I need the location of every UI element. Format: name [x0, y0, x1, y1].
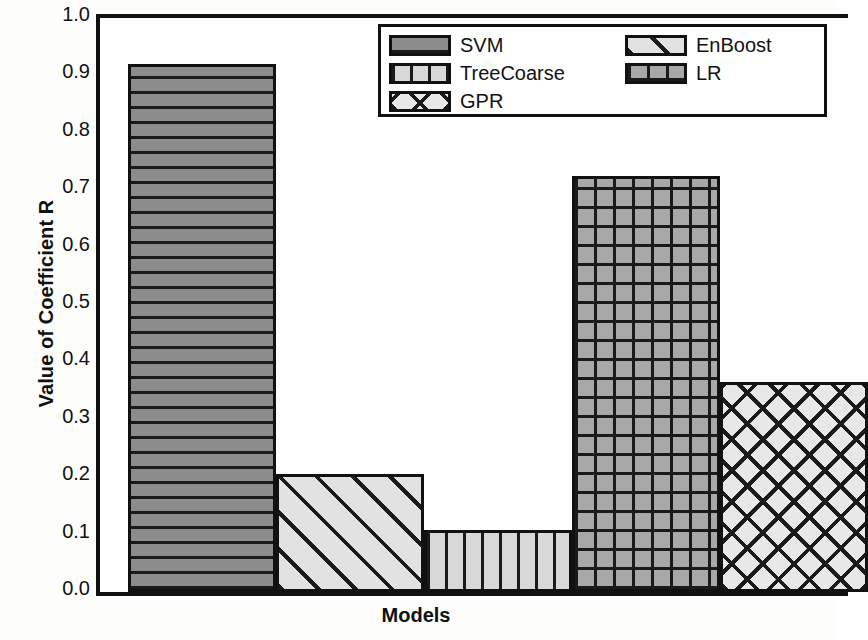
bar-svm — [128, 64, 276, 592]
y-axis-tick-label: 0.3 — [32, 406, 90, 426]
y-axis-tick-label: 0.7 — [32, 176, 90, 196]
y-axis-tick-label: 1.0 — [32, 4, 90, 24]
chart-legend: SVMEnBoostTreeCoarseLRGPR — [378, 24, 827, 117]
y-axis-tick-labels: 1.00.90.80.70.60.50.40.30.20.10.0 — [28, 0, 90, 640]
legend-item-lr[interactable]: LR — [625, 63, 722, 84]
y-axis-tick-label: 0.6 — [32, 234, 90, 254]
y-axis-tick-label: 0.9 — [32, 61, 90, 81]
legend-item-svm[interactable]: SVM — [389, 35, 625, 56]
legend-swatch-gpr-icon — [389, 91, 451, 112]
y-axis-tick-label: 0.5 — [32, 291, 90, 311]
x-axis-title: Models — [96, 604, 736, 627]
legend-swatch-lr-icon — [625, 63, 687, 84]
legend-swatch-enboost-icon — [625, 35, 687, 56]
legend-item-gpr[interactable]: GPR — [389, 91, 625, 112]
legend-item-treecoarse[interactable]: TreeCoarse — [389, 63, 625, 84]
legend-row: TreeCoarseLR — [389, 59, 818, 87]
y-axis-tick-label: 0.2 — [32, 463, 90, 483]
y-axis-tick-label: 0.0 — [32, 578, 90, 598]
legend-label: LR — [696, 63, 722, 83]
legend-label: SVM — [460, 35, 503, 55]
y-axis-tick-label: 0.8 — [32, 119, 90, 139]
bar-lr — [572, 176, 720, 592]
bar-gpr — [720, 382, 868, 592]
legend-label: GPR — [460, 91, 503, 111]
y-axis-tick-label: 0.1 — [32, 521, 90, 541]
legend-label: EnBoost — [696, 35, 772, 55]
bar-enboost — [276, 474, 424, 592]
legend-label: TreeCoarse — [460, 63, 565, 83]
legend-item-enboost[interactable]: EnBoost — [625, 35, 772, 56]
legend-swatch-treecoarse-icon — [389, 63, 451, 84]
legend-row: GPR — [389, 87, 818, 115]
legend-swatch-svm-icon — [389, 35, 451, 56]
bar-treecoarse — [424, 530, 572, 592]
legend-row: SVMEnBoost — [389, 31, 818, 59]
y-axis-tick-label: 0.4 — [32, 348, 90, 368]
